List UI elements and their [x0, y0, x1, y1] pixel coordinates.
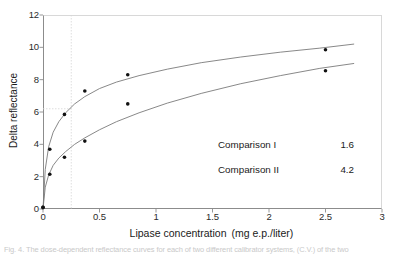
annotation-label: Comparison I	[218, 139, 276, 150]
x-tick-label: 2.5	[311, 212, 341, 222]
x-axis-title: Lipase concentration(mg e.p./liter)	[0, 227, 399, 239]
y-tick-label: 10	[17, 42, 39, 52]
y-tick-label: 6	[17, 107, 39, 117]
annotation-value: 4.2	[340, 164, 358, 175]
y-tick-label: 8	[17, 75, 39, 85]
plot-area	[43, 15, 382, 209]
annotation-row: Comparison II 4.2	[218, 164, 358, 175]
x-tick-label: 0.5	[85, 212, 115, 222]
x-tick-label: 1.5	[198, 212, 228, 222]
y-axis-title: Delta reflectance	[8, 46, 19, 176]
annotation-value: 1.6	[340, 139, 358, 150]
x-tick-label: 0	[28, 212, 58, 222]
y-tick-label: 4	[17, 139, 39, 149]
x-tick-label: 3	[367, 212, 397, 222]
y-tick-label: 12	[17, 10, 39, 20]
x-axis-tick-labels: 0 0.5 1 1.5 2 2.5 3	[0, 212, 399, 226]
x-axis-title-units: (mg e.p./liter)	[227, 227, 294, 239]
figure-container: 12 10 8 6 4 2 0 Delta reflectance 0 0.5 …	[0, 0, 399, 257]
figure-caption: Fig. 4. The dose-dependent reflectance c…	[4, 245, 396, 256]
x-tick-label: 2	[254, 212, 284, 222]
x-tick-label: 1	[141, 212, 171, 222]
y-tick-label: 2	[17, 172, 39, 182]
comparison-annotation-block: Comparison I 1.6 Comparison II 4.2	[218, 139, 358, 175]
annotation-row: Comparison I 1.6	[218, 139, 358, 150]
x-axis-title-text: Lipase concentration	[130, 227, 227, 239]
annotation-label: Comparison II	[218, 164, 279, 175]
